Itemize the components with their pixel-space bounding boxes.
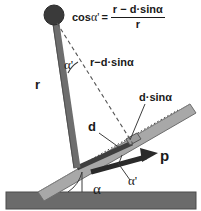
formula-fraction: r − d·sinα r: [111, 4, 165, 30]
ground-surface: [6, 192, 196, 209]
formula-equals: =: [101, 11, 107, 23]
formula-lhs-angle: α': [91, 10, 99, 25]
pendulum-bob: [44, 5, 64, 25]
label-alpha-prime-top: α': [64, 58, 73, 71]
label-alpha-prime-bottom: α': [128, 174, 137, 187]
diagram-canvas: [0, 0, 201, 211]
label-d: d: [88, 120, 96, 133]
label-p: p: [160, 148, 169, 163]
formula-cos-alpha-prime: cos α' = r − d·sinα r: [72, 4, 165, 30]
formula-denominator: r: [136, 18, 140, 31]
physics-diagram: cos α' = r − d·sinα r r α' r−d·sinα d·si…: [0, 0, 201, 211]
pendulum-rod: [55, 17, 77, 168]
pendulum-rod-edge: [52, 17, 74, 168]
label-r: r: [35, 78, 40, 91]
formula-lhs: cos: [72, 11, 91, 23]
label-r-minus-d-sin-alpha: r−d·sinα: [90, 57, 134, 68]
leader-line-d: [99, 133, 120, 148]
label-d-sin-alpha: d·sinα: [139, 92, 172, 103]
label-alpha-bottom: α: [93, 182, 101, 197]
formula-numerator: r − d·sinα: [111, 4, 165, 18]
